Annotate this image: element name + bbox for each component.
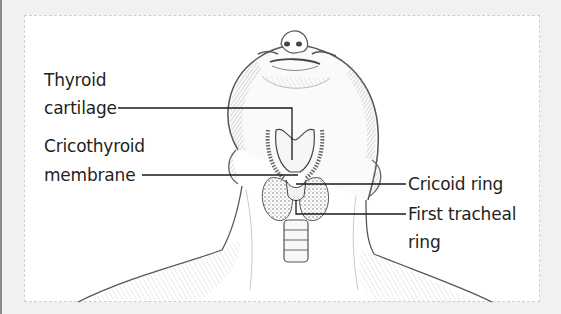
label-first-tracheal-line2: ring (408, 228, 440, 256)
label-first-tracheal-line1: First tracheal (408, 200, 516, 228)
label-cricoid-ring: Cricoid ring (408, 170, 503, 198)
label-cricothyroid-line2: membrane (44, 161, 135, 189)
trachea (284, 220, 308, 262)
label-thyroid-line1: Thyroid (44, 66, 106, 94)
label-cricothyroid-line1: Cricothyroid (44, 132, 145, 160)
label-thyroid-line2: cartilage (44, 94, 117, 122)
